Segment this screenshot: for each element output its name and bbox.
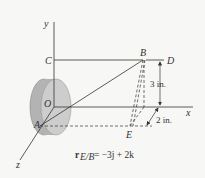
line-b-e-2 [133,60,145,126]
label-e: E [125,129,132,140]
line-b-e [130,60,143,126]
dimension-2in-label: 2 in. [156,115,172,125]
equation-subscript: E/B [79,152,94,162]
dimension-3in-label: 3 in. [150,79,166,89]
vector-diagram: y x z O C B D A E 3 in. 2 in. r E/B = −3… [0,0,205,178]
label-o: O [44,98,51,109]
label-y: y [43,18,49,29]
label-d: D [166,55,175,66]
label-a: A [33,119,41,130]
equation: r E/B = −3j + 2k [75,150,134,162]
label-z: z [15,159,20,170]
label-x: x [185,107,191,118]
label-c: C [45,55,52,66]
equation-rhs: = −3j + 2k [94,150,134,160]
label-b: B [140,47,146,58]
